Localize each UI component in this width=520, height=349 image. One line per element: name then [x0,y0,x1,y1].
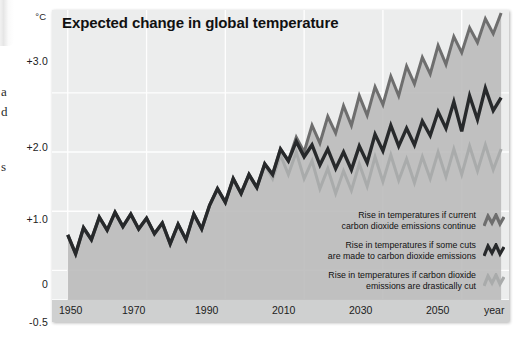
legend-label-medium-line1: Rise in temperatures if some cuts [328,240,476,251]
legend-label-low-line1: Rise in temperatures if carbon dioxide [328,270,476,281]
zigzag-line-icon-high [483,213,505,229]
legend-label-low: Rise in temperatures if carbon dioxide e… [328,270,476,292]
y-axis: °C +3.0 +2.0 +1.0 0 -0.5 [0,0,52,349]
x-tick-2010: 2010 [272,304,295,316]
chart-title: Expected change in global temperature [62,14,338,31]
chart-legend: Rise in temperatures if current carbon d… [255,206,505,296]
legend-label-low-line2: emissions are drastically cut [328,281,476,292]
x-axis-band: 1950 1970 1990 2010 2030 2050 year [52,300,509,322]
y-axis-unit-label: °C [35,11,46,22]
y-tick-neg: -0.5 [29,316,48,328]
zigzag-line-icon-low [483,273,505,289]
y-tick-1: +1.0 [26,213,48,225]
legend-label-high-line2: carbon dioxide emissions continue [342,221,476,232]
x-tick-1970: 1970 [122,304,145,316]
x-tick-1950: 1950 [59,304,82,316]
x-axis-label: year [484,304,504,316]
legend-item-high: Rise in temperatures if current carbon d… [255,206,505,236]
legend-label-high-line1: Rise in temperatures if current [342,210,476,221]
zigzag-line-icon-medium [483,243,505,259]
chart-panel: 1950 1970 1990 2010 2030 2050 year Rise … [52,10,509,322]
legend-label-high: Rise in temperatures if current carbon d… [342,210,476,232]
legend-item-medium: Rise in temperatures if some cuts are ma… [255,236,505,266]
y-tick-3: +3.0 [26,55,48,67]
y-tick-0: 0 [42,278,48,290]
legend-item-low: Rise in temperatures if carbon dioxide e… [255,266,505,296]
legend-label-medium-line2: are made to carbon dioxide emissions [328,251,476,262]
x-tick-1990: 1990 [195,304,218,316]
x-tick-2030: 2030 [349,304,372,316]
x-tick-2050: 2050 [426,304,449,316]
y-tick-2: +2.0 [26,141,48,153]
legend-label-medium: Rise in temperatures if some cuts are ma… [328,240,476,262]
